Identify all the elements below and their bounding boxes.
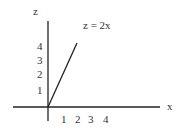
x-tick-1: 1 [61,113,67,125]
z-tick-3: 3 [37,54,43,66]
x-tick-3: 3 [88,113,94,125]
equation-label: z = 2x [83,19,111,31]
z-tick-4: 4 [37,40,43,52]
x-tick-4: 4 [103,113,109,125]
line-z-equals-2x [48,43,77,107]
plot-canvas: z x z = 2x 4 3 2 1 1 2 3 4 [0,0,182,135]
x-axis-label: x [167,100,173,112]
z-tick-1: 1 [37,84,43,96]
z-axis-label: z [33,5,38,17]
z-tick-2: 2 [37,68,43,80]
x-tick-2: 2 [75,113,81,125]
